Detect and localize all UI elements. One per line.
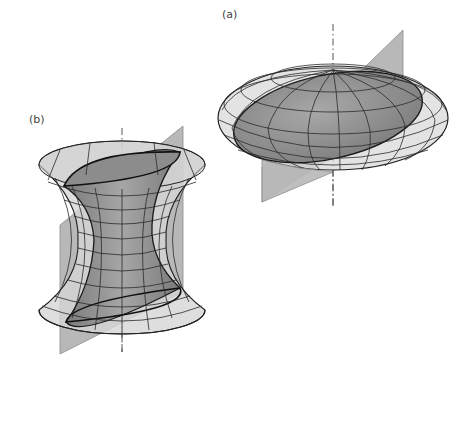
ellipsoid-figure: [218, 24, 448, 206]
diagram-canvas: [0, 0, 464, 425]
hyperboloid-figure: [39, 126, 205, 354]
